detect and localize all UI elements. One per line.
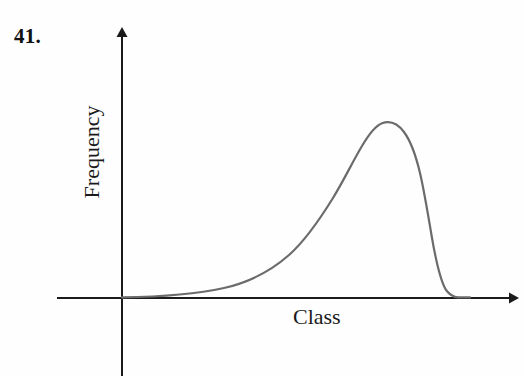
y-axis-arrow-icon [117,27,128,37]
frequency-curve-path [122,122,470,297]
x-axis-arrow-icon [509,293,519,304]
y-axis-title-text: Frequency [81,106,103,199]
x-axis-title: Class [293,306,341,328]
figure-page: 41. Class Frequency [0,0,524,376]
